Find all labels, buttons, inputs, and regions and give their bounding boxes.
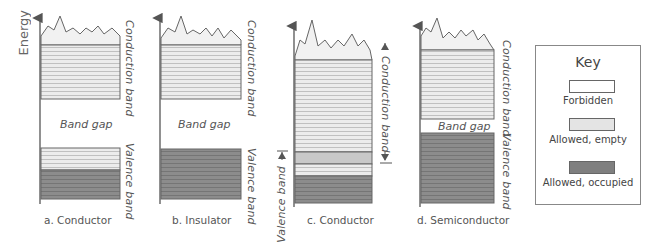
panel-d-conduction-label: Conduction band xyxy=(500,40,513,137)
legend-label-allowed-empty: Allowed, empty xyxy=(536,134,640,145)
panel-b-conduction-label: Conduction band xyxy=(245,20,258,117)
legend-key: Key Forbidden Allowed, empty Allowed, oc… xyxy=(535,45,641,205)
energy-axis-label: Energy xyxy=(16,10,31,56)
legend-swatch-allowed-empty xyxy=(569,118,615,131)
panel-a-conductor xyxy=(40,16,120,204)
panel-a-caption: a. Conductor xyxy=(44,214,111,226)
legend-swatch-forbidden xyxy=(569,80,615,93)
panel-c-conduction-label: Conduction band xyxy=(379,56,392,153)
panel-b-band-gap-label: Band gap xyxy=(178,118,230,131)
panel-b-insulator xyxy=(160,16,241,204)
panel-b-caption: b. Insulator xyxy=(172,214,231,226)
panel-a-valence-label: Valence band xyxy=(123,143,136,220)
panel-a-band-gap-label: Band gap xyxy=(60,118,112,131)
panel-c-valence-label: Valence band xyxy=(275,166,288,243)
panel-b-valence-label: Valence band xyxy=(245,148,258,225)
panel-a-conduction-label: Conduction band xyxy=(123,20,136,117)
legend-title: Key xyxy=(536,54,640,70)
legend-label-allowed-occupied: Allowed, occupied xyxy=(536,177,640,188)
panel-d-band-gap-label: Band gap xyxy=(438,120,490,133)
legend-swatch-allowed-occupied xyxy=(569,161,615,174)
panel-d-caption: d. Semiconductor xyxy=(417,214,509,226)
panel-d-semiconductor xyxy=(420,18,494,207)
panel-c-conductor xyxy=(277,20,392,207)
panel-c-caption: c. Conductor xyxy=(307,214,374,226)
panel-d-valence-label: Valence band xyxy=(500,133,513,210)
legend-label-forbidden: Forbidden xyxy=(536,95,640,106)
